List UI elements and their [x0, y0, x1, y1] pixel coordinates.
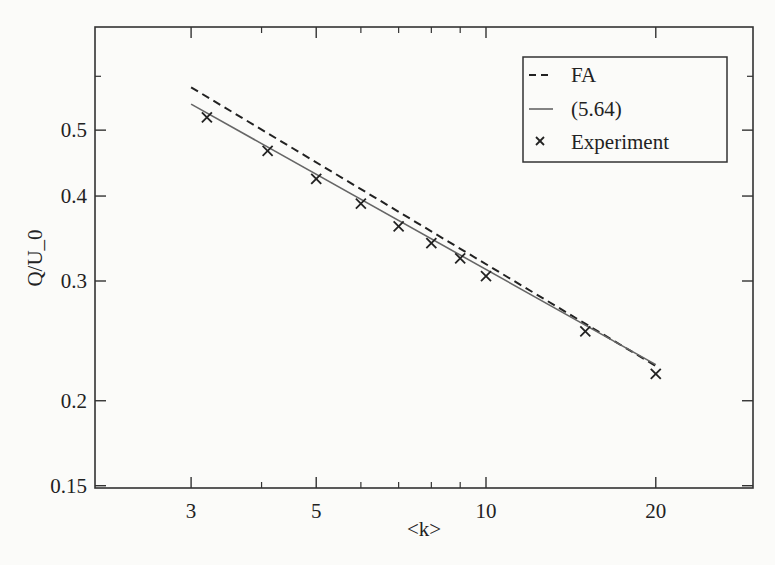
y-tick-label: 0.15 — [50, 474, 87, 498]
x-axis-label: <k> — [407, 517, 441, 541]
legend-label-fa: FA — [571, 63, 597, 87]
legend: FA (5.64) Experiment — [523, 57, 727, 162]
y-tick-label: 0.5 — [61, 118, 87, 142]
y-axis-label: Q/U_0 — [23, 229, 47, 286]
legend-label-experiment: Experiment — [571, 130, 669, 154]
x-tick-label: 5 — [311, 499, 322, 523]
legend-label-5-64: (5.64) — [571, 97, 622, 121]
x-tick-label: 10 — [476, 499, 497, 523]
chart: 3510200.150.20.30.40.5 Q/U_0 <k> FA (5.6… — [0, 0, 775, 565]
x-tick-label: 20 — [645, 499, 666, 523]
y-tick-label: 0.4 — [61, 184, 88, 208]
y-tick-label: 0.2 — [61, 389, 87, 413]
x-tick-label: 3 — [186, 499, 197, 523]
y-tick-label: 0.3 — [61, 269, 87, 293]
